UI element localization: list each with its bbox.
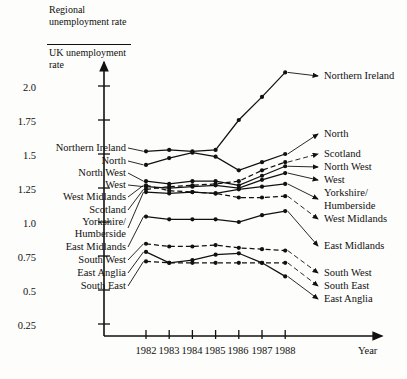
right-label-northern-ireland: Northern Ireland (324, 70, 394, 81)
data-point (283, 261, 287, 265)
data-point (144, 214, 148, 218)
right-label-scotland: Scotland (324, 148, 361, 159)
data-point (283, 209, 287, 213)
data-point (167, 182, 171, 186)
data-point (260, 195, 264, 199)
data-point (144, 259, 148, 263)
data-point (214, 179, 218, 183)
data-point (283, 152, 287, 156)
data-point (214, 253, 218, 257)
data-point (214, 148, 218, 152)
data-point (260, 160, 264, 164)
data-point (144, 190, 148, 194)
data-point (190, 261, 194, 265)
data-point (237, 118, 241, 122)
left-label-west-midlands: West Midlands (20, 191, 126, 202)
data-point (260, 247, 264, 251)
data-point (260, 168, 264, 172)
y-tick-2.0: 2.0 (0, 82, 36, 93)
right-label-east-midlands: East Midlands (324, 240, 384, 251)
data-point (237, 195, 241, 199)
data-point (144, 242, 148, 246)
data-point (190, 217, 194, 221)
data-point (144, 163, 148, 167)
right-label-humberside: Humberside (324, 200, 375, 211)
right-label-north-west: North West (324, 161, 372, 172)
data-point (237, 168, 241, 172)
data-point (214, 191, 218, 195)
data-point (237, 179, 241, 183)
data-point (167, 148, 171, 152)
data-point (190, 190, 194, 194)
right-label-east-anglia: East Anglia (324, 293, 373, 304)
data-point (237, 187, 241, 191)
right-label-south-east: South East (324, 280, 369, 291)
right-label-west: West (324, 174, 345, 185)
left-label-west: West (20, 179, 126, 190)
data-point (260, 261, 264, 265)
data-point (167, 189, 171, 193)
data-point (260, 95, 264, 99)
data-point (237, 251, 241, 255)
data-point (283, 274, 287, 278)
data-point (260, 178, 264, 182)
data-point (260, 185, 264, 189)
data-point (214, 243, 218, 247)
data-point (260, 174, 264, 178)
data-point (190, 179, 194, 183)
left-label-humberside: Humberside (20, 228, 126, 239)
data-point (214, 217, 218, 221)
left-label-south-west: South West (20, 254, 126, 265)
left-label-yorkshire: Yorkshire/ (20, 216, 126, 227)
series-line-northern-ireland (146, 72, 285, 151)
data-point (283, 164, 287, 168)
left-label-east-anglia: East Anglia (20, 267, 126, 278)
data-point (283, 70, 287, 74)
unemployment-ratio-line-chart: Regional unemployment rate UK unemployme… (0, 0, 407, 379)
data-point (144, 183, 148, 187)
data-point (144, 250, 148, 254)
right-label-west-midlands: West Midlands (324, 213, 387, 224)
right-label-south-west: South West (324, 267, 372, 278)
data-point (144, 179, 148, 183)
data-point (283, 182, 287, 186)
left-label-north-west: North West (20, 167, 126, 178)
data-point (190, 185, 194, 189)
right-label-yorkshire: Yorkshire/ (324, 187, 368, 198)
y-tick-0.25: 0.25 (0, 320, 36, 331)
data-point (144, 149, 148, 153)
y-tick-1.75: 1.75 (0, 116, 36, 127)
data-point (237, 246, 241, 250)
data-point (167, 261, 171, 265)
data-point (283, 248, 287, 252)
data-point (167, 156, 171, 160)
left-label-northern-ireland: Northern Ireland (20, 142, 126, 153)
data-point (190, 244, 194, 248)
left-label-south-east: South East (20, 280, 126, 291)
data-point (167, 217, 171, 221)
data-point (260, 213, 264, 217)
left-label-scotland: Scotland (20, 204, 126, 215)
data-point (283, 160, 287, 164)
x-axis-label: Year (358, 345, 377, 356)
right-label-north: North (324, 128, 349, 139)
data-point (283, 194, 287, 198)
data-point (167, 244, 171, 248)
x-tick-1988: 1988 (265, 345, 305, 356)
data-point (190, 151, 194, 155)
data-point (237, 220, 241, 224)
left-label-east-midlands: East Midlands (20, 241, 126, 252)
data-point (214, 261, 218, 265)
left-label-north: North (20, 155, 126, 166)
data-point (214, 155, 218, 159)
data-point (283, 171, 287, 175)
data-point (214, 183, 218, 187)
data-point (237, 261, 241, 265)
